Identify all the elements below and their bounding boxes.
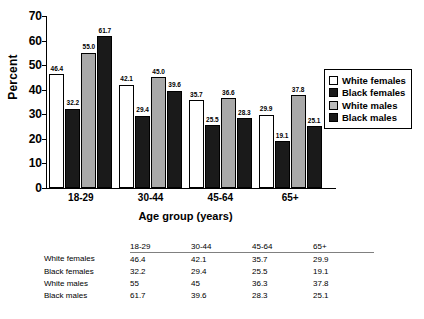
bar[interactable] [151, 77, 166, 188]
x-axis-ticks: 18-2930-4445-6465+ [46, 192, 325, 203]
bar[interactable] [135, 116, 150, 188]
bar-slot: 29.9 [259, 16, 274, 188]
table-cell: 19.1 [313, 265, 374, 277]
x-tick-label: 65+ [255, 192, 325, 203]
table-row: White females46.442.135.729.9 [44, 253, 374, 266]
bar-value-label: 25.1 [308, 118, 321, 125]
bar-slot: 36.6 [221, 16, 236, 188]
bar-slot: 29.4 [135, 16, 150, 188]
data-table-head: 18-2930-4445-6465+ [44, 240, 374, 253]
bar-slot: 55.0 [81, 16, 96, 188]
table-row-header: White females [44, 253, 130, 266]
x-axis-title: Age group (years) [46, 210, 325, 222]
table-cell: 55 [130, 277, 191, 289]
bar-value-label: 46.4 [51, 66, 64, 73]
y-tick-label: 30 [29, 108, 42, 120]
plot-area: 010203040506070 46.432.255.061.742.129.4… [46, 16, 325, 188]
bar-slot: 25.5 [205, 16, 220, 188]
legend-item[interactable]: Black females [329, 87, 406, 98]
bar[interactable] [291, 95, 306, 188]
y-tick-label: 10 [29, 157, 42, 169]
table-row: Black females32.229.425.519.1 [44, 265, 374, 277]
table-cell: 29.4 [191, 265, 252, 277]
chart-legend: White femalesBlack femalesWhite malesBla… [324, 69, 412, 129]
bar[interactable] [119, 85, 134, 188]
bar-slot: 45.0 [151, 16, 166, 188]
table-cell: 36.3 [252, 277, 313, 289]
bar-value-label: 29.4 [136, 107, 149, 114]
bar[interactable] [189, 100, 204, 188]
bar-group: 42.129.445.039.6 [116, 16, 186, 188]
bar[interactable] [259, 115, 274, 188]
bar[interactable] [167, 91, 182, 188]
data-table-grid: 18-2930-4445-6465+ White females46.442.1… [44, 240, 374, 301]
table-cell: 46.4 [130, 253, 191, 266]
x-axis-line [46, 188, 336, 189]
legend-item[interactable]: Black males [329, 112, 406, 123]
bar-group: 35.725.536.628.3 [186, 16, 256, 188]
bar-value-label: 29.9 [260, 106, 273, 113]
table-cell: 39.6 [191, 289, 252, 301]
table-cell: 28.3 [252, 289, 313, 301]
table-row: White males554536.337.8 [44, 277, 374, 289]
bar-value-label: 55.0 [83, 44, 96, 51]
bar-value-label: 61.7 [99, 28, 112, 35]
y-tick-label: 60 [29, 35, 42, 47]
y-tick-label: 40 [29, 84, 42, 96]
table-cell: 35.7 [252, 253, 313, 266]
bar-value-label: 45.0 [152, 69, 165, 76]
legend-item-label: Black females [342, 87, 405, 98]
table-cell: 25.1 [313, 289, 374, 301]
bar[interactable] [221, 98, 236, 188]
bar[interactable] [65, 109, 80, 188]
table-column-header: 18-29 [130, 240, 191, 253]
table-row-header: White males [44, 277, 130, 289]
legend-item[interactable]: White females [329, 75, 406, 86]
bar-group: 29.919.137.825.1 [255, 16, 325, 188]
bar-value-label: 37.8 [292, 87, 305, 94]
bar[interactable] [205, 125, 220, 188]
table-cell: 32.2 [130, 265, 191, 277]
bar[interactable] [275, 141, 290, 188]
legend-item-label: Black males [342, 112, 397, 123]
bar-slot: 28.3 [237, 16, 252, 188]
bar-value-label: 36.6 [222, 90, 235, 97]
legend-item-label: White females [342, 75, 406, 86]
data-table: 18-2930-4445-6465+ White females46.442.1… [44, 240, 374, 301]
bar-group: 46.432.255.061.7 [46, 16, 116, 188]
legend-swatch-icon [329, 101, 338, 110]
bar-slot: 42.1 [119, 16, 134, 188]
legend-swatch-icon [329, 113, 338, 122]
table-row-header: Black females [44, 265, 130, 277]
bar[interactable] [307, 126, 322, 188]
bar-value-label: 19.1 [276, 133, 289, 140]
table-header-row: 18-2930-4445-6465+ [44, 240, 374, 253]
bar-slot: 37.8 [291, 16, 306, 188]
bar-value-label: 42.1 [120, 76, 133, 83]
table-cell: 37.8 [313, 277, 374, 289]
bar[interactable] [97, 36, 112, 188]
table-row: Black males61.739.628.325.1 [44, 289, 374, 301]
bar[interactable] [237, 118, 252, 188]
x-tick-label: 30-44 [116, 192, 186, 203]
bar[interactable] [81, 53, 96, 188]
bar-slot: 61.7 [97, 16, 112, 188]
table-cell: 45 [191, 277, 252, 289]
table-cell: 61.7 [130, 289, 191, 301]
bar-value-label: 39.6 [168, 82, 181, 89]
bar-value-label: 35.7 [190, 92, 203, 99]
table-column-header: 30-44 [191, 240, 252, 253]
legend-swatch-icon [329, 76, 338, 85]
table-corner-cell [44, 240, 130, 253]
bar-value-label: 28.3 [238, 110, 251, 117]
bar-slot: 39.6 [167, 16, 182, 188]
table-cell: 25.5 [252, 265, 313, 277]
table-cell: 29.9 [313, 253, 374, 266]
y-tick-label: 70 [29, 10, 42, 22]
x-tick-label: 45-64 [186, 192, 256, 203]
y-tick-label: 50 [29, 59, 42, 71]
bar-chart: Percent 010203040506070 46.432.255.061.7… [0, 0, 424, 232]
legend-item[interactable]: White males [329, 100, 406, 111]
bar[interactable] [49, 74, 64, 188]
table-row-header: Black males [44, 289, 130, 301]
